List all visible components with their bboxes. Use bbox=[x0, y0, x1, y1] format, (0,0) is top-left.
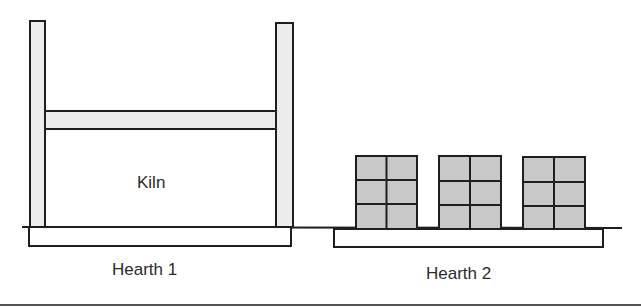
kiln-right-post bbox=[276, 23, 293, 227]
hearth-1-label: Hearth 1 bbox=[112, 260, 177, 280]
ware-stack-1 bbox=[356, 156, 417, 229]
hearth-2-slab bbox=[334, 229, 603, 247]
ware-stack-3 bbox=[523, 157, 585, 229]
ware-stack-2 bbox=[439, 156, 501, 229]
kiln-hearth-diagram bbox=[0, 0, 641, 307]
kiln-left-post bbox=[30, 21, 45, 227]
kiln-beam bbox=[45, 111, 276, 129]
hearth-2-label: Hearth 2 bbox=[426, 264, 491, 284]
kiln-label: Kiln bbox=[137, 173, 165, 193]
hearth-1-slab bbox=[29, 227, 291, 246]
